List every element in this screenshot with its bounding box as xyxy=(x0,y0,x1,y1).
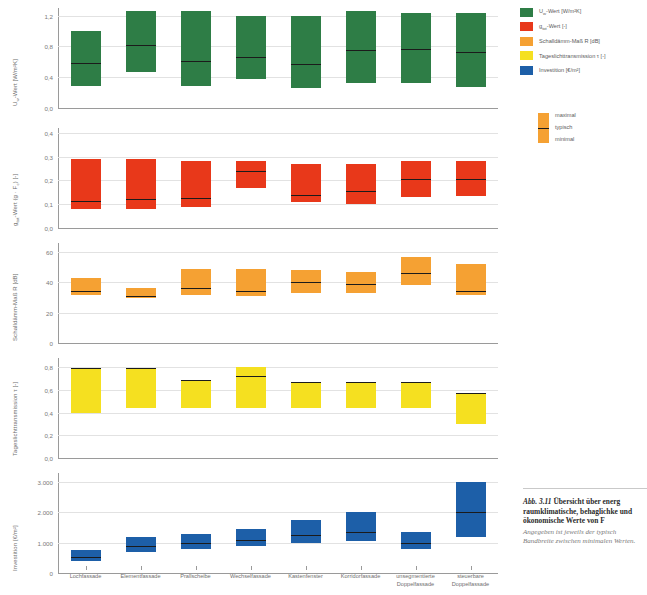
legend-item: Uw-Wert [W/m²K] xyxy=(520,8,647,17)
range-bar xyxy=(456,161,486,196)
range-bar xyxy=(346,382,376,408)
y-tick-label: 0,8 xyxy=(44,43,53,50)
chart-panels: Uw-Wert [W/m²K]0,00,40,81,2gtot-Wert (g … xyxy=(0,0,510,595)
caption-note-1: Angegeben ist jeweils der typisch xyxy=(523,528,616,536)
range-bar xyxy=(236,269,266,296)
typical-value-line xyxy=(71,63,101,64)
x-axis-category-label: Korridorfassade xyxy=(333,573,388,581)
typical-value-line xyxy=(181,198,211,199)
range-bar xyxy=(456,393,486,424)
range-bar xyxy=(291,164,321,202)
y-tick-label: 0,0 xyxy=(44,455,53,462)
y-tick-label: 60 xyxy=(46,249,53,256)
range-bar xyxy=(181,534,211,549)
caption-note-3: Werten. xyxy=(614,537,635,545)
range-legend-box xyxy=(538,113,549,143)
gridline xyxy=(58,252,498,253)
typical-value-line xyxy=(181,288,211,289)
range-bar xyxy=(236,367,266,408)
x-axis-category-label: Kastenfenster xyxy=(278,573,333,581)
x-axis-category-label: Elementfassade xyxy=(113,573,168,581)
legend-color-swatch xyxy=(520,66,533,75)
typical-value-line xyxy=(71,557,101,558)
y-tick-label: 0,0 xyxy=(44,105,53,112)
range-bar xyxy=(346,272,376,293)
range-bar xyxy=(181,269,211,295)
y-tick-label: 1,2 xyxy=(44,12,53,19)
typical-value-line xyxy=(181,380,211,381)
figure-caption: Abb. 3.11 Übersicht über energ raumklima… xyxy=(523,497,647,547)
y-tick-label: 0,0 xyxy=(44,225,53,232)
caption-rule xyxy=(523,488,647,489)
range-bar xyxy=(346,512,376,541)
typical-value-line xyxy=(456,179,486,180)
legend-item-label: Investition [€/m²] xyxy=(539,67,580,73)
x-axis-tick xyxy=(416,566,417,570)
caption-main: Abb. 3.11 Übersicht über energ raumklima… xyxy=(523,497,647,526)
typical-value-line xyxy=(401,49,431,50)
range-bar xyxy=(236,16,266,78)
range-bar xyxy=(401,382,431,408)
x-axis-tick xyxy=(196,566,197,570)
y-ticklabels-g_value: 0,00,10,20,30,4 xyxy=(0,128,56,228)
y-axis-line xyxy=(58,358,59,458)
range-bar xyxy=(71,31,101,86)
panel-u_value: Uw-Wert [W/m²K]0,00,40,81,2 xyxy=(0,8,510,108)
typical-value-line xyxy=(401,179,431,180)
gridline xyxy=(58,435,498,436)
x-axis-category-label: steuerbare Doppelfassade xyxy=(443,573,498,588)
range-bar xyxy=(456,13,486,87)
caption-line2: raumklimatische, behaglichke xyxy=(523,507,618,516)
legend-item: gtot-Wert [-] xyxy=(520,22,647,31)
plot-area-g_value xyxy=(58,128,498,228)
x-axis-tick xyxy=(86,566,87,570)
x-axis-tick xyxy=(251,566,252,570)
typical-value-line xyxy=(346,532,376,533)
gridline xyxy=(58,282,498,283)
range-legend: maximal typisch minimal xyxy=(538,113,576,143)
range-bar xyxy=(346,11,376,83)
x-axis-tick xyxy=(141,566,142,570)
x-axis-baseline xyxy=(58,108,498,109)
typical-value-line xyxy=(291,282,321,283)
y-ticklabels-u_value: 0,00,40,81,2 xyxy=(0,8,56,108)
y-tick-label: 0,4 xyxy=(44,74,53,81)
typical-value-line xyxy=(181,61,211,62)
y-axis-line xyxy=(58,243,59,343)
legend-item: Schalldämm-Maß R [dB] xyxy=(520,37,647,46)
gridline xyxy=(58,543,498,544)
gridline xyxy=(58,482,498,483)
range-bar xyxy=(291,270,321,293)
x-axis-tick xyxy=(471,566,472,570)
range-bar xyxy=(71,278,101,295)
y-axis-line xyxy=(58,128,59,228)
typical-value-line xyxy=(126,546,156,547)
typical-value-line xyxy=(346,191,376,192)
x-axis-category-label: Prallscheibe xyxy=(168,573,223,581)
range-bar xyxy=(126,537,156,552)
legend-color-swatch xyxy=(520,51,533,60)
typical-value-line xyxy=(291,535,321,536)
typical-value-line xyxy=(71,368,101,369)
y-tick-label: 0,3 xyxy=(44,153,53,160)
typical-value-line xyxy=(401,273,431,274)
gridline xyxy=(58,367,498,368)
range-bar xyxy=(181,161,211,206)
y-tick-label: 3.000 xyxy=(38,479,53,486)
legend-item-label: Uw-Wert [W/m²K] xyxy=(539,8,581,16)
x-axis-category-label: unsegmentierte Doppelfassade xyxy=(388,573,443,588)
y-tick-label: 0,8 xyxy=(44,364,53,371)
x-axis-tick xyxy=(361,566,362,570)
y-tick-label: 40 xyxy=(46,279,53,286)
caption-note: Angegeben ist jeweils der typisch Bandbr… xyxy=(523,528,647,547)
typical-value-line xyxy=(236,57,266,58)
y-axis-line xyxy=(58,8,59,108)
plot-area-investment xyxy=(58,473,498,573)
range-bar xyxy=(401,532,431,549)
legend-item: Investition [€/m²] xyxy=(520,66,647,75)
typical-value-line xyxy=(346,50,376,51)
typical-value-line xyxy=(346,284,376,285)
y-tick-label: 1.000 xyxy=(38,539,53,546)
typical-value-line xyxy=(71,291,101,292)
typical-value-line xyxy=(236,291,266,292)
